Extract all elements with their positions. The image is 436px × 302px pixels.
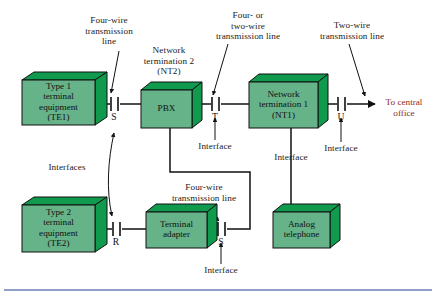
box-nt1-shape — [249, 74, 328, 128]
leader-four-or-two-wire — [213, 44, 228, 95]
annotation-interfaces: Interfaces — [36, 162, 98, 173]
interface-letter-t: T — [208, 112, 222, 122]
annotation-four-wire-lower: Four-wire transmission line — [152, 182, 256, 203]
leader-interfaces-double — [108, 133, 114, 216]
annotation-nt2-title: Network termination 2 (NT2) — [128, 45, 210, 77]
box-pbx-shape — [141, 82, 202, 128]
annotation-four-wire-top: Four-wire transmission line — [62, 15, 156, 47]
annotation-four-or-two-wire: Four- or two-wire transmission line — [196, 10, 300, 42]
annotation-to-central-office: To central office — [375, 97, 433, 118]
interface-letter-r: R — [109, 237, 123, 247]
box-analog-telephone-shape — [273, 204, 340, 248]
interface-letter-s-upper: S — [107, 112, 121, 122]
annotation-interface-s-lower: Interface — [192, 265, 250, 276]
interface-letter-s-lower: S — [214, 237, 228, 247]
annotation-interface-t: Interface — [186, 141, 244, 152]
box-te2-shape — [22, 197, 107, 252]
leader-two-wire — [349, 44, 365, 96]
box-terminal-adapter-shape — [146, 204, 217, 248]
annotation-interface-u: Interface — [312, 143, 370, 154]
leader-four-wire-top — [111, 51, 119, 93]
isdn-interface-diagram: Type 1 terminal equipment (TE1) PBX Netw… — [0, 0, 436, 302]
annotation-interface-phone: Interface — [262, 152, 320, 163]
annotation-two-wire: Two-wire transmission line — [300, 20, 404, 41]
box-te1-shape — [22, 72, 107, 125]
interface-letter-u: U — [334, 112, 348, 122]
